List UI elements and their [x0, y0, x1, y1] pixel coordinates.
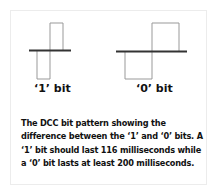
figure-caption: The DCC bit pattern showing the differen… [21, 117, 206, 170]
bit1-label: ‘1’ bit [34, 82, 71, 95]
bit0-waveform [116, 23, 187, 79]
bit1-waveform [29, 23, 71, 79]
bit0-label: ‘0’ bit [136, 82, 173, 95]
